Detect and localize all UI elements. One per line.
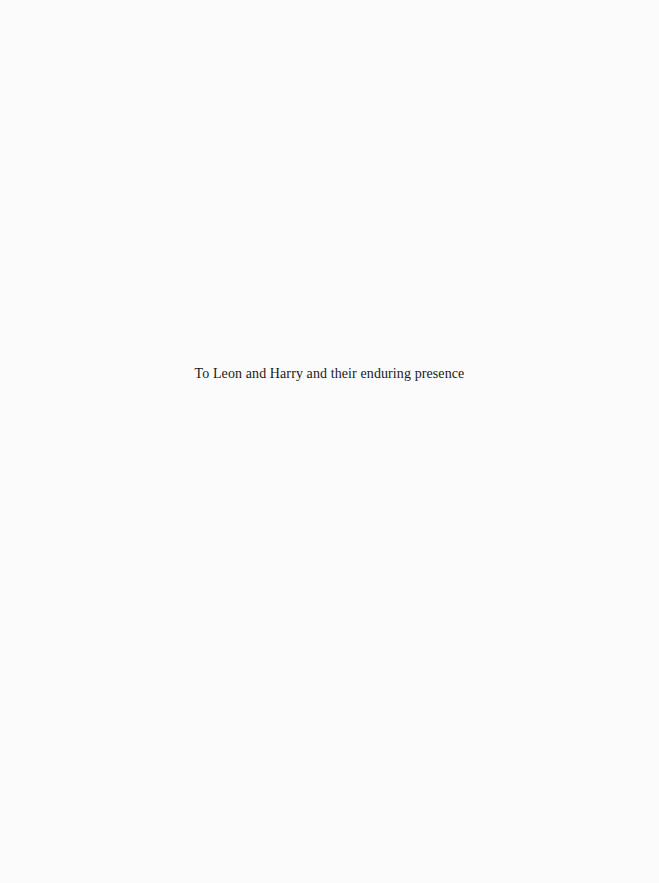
dedication-text: To Leon and Harry and their enduring pre… [0,366,659,382]
document-page: To Leon and Harry and their enduring pre… [0,0,659,883]
